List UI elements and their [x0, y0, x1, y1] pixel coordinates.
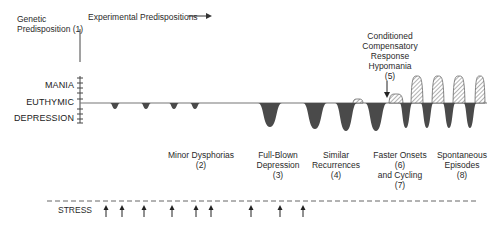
annotation-line: Hypomania [355, 61, 425, 71]
depression-episodes [110, 103, 477, 131]
stage-line: Full-Blown [248, 150, 308, 160]
stress-arrow-icon [209, 205, 214, 217]
depression-episode [190, 103, 200, 109]
depression-episode [335, 103, 357, 131]
depression-episode [110, 103, 120, 109]
stress-arrow-icon [194, 205, 199, 217]
depression-episode [421, 103, 434, 128]
annotation-line: Response [355, 51, 425, 61]
annotation-line: Conditioned [355, 31, 425, 41]
stage-label-minor-dysphorias: Minor Dysphorias (2) [166, 150, 236, 170]
stress-arrow-icon [249, 205, 254, 217]
depression-episode [169, 103, 179, 109]
experimental-predispositions-label: Experimental Predispositions [88, 12, 198, 22]
stress-arrow-icon [104, 205, 109, 217]
mania-episode [453, 76, 465, 103]
mania-episode [353, 99, 363, 103]
axis-label-euthymic: EUTHYMIC [0, 97, 74, 107]
stage-line: and Cycling [367, 170, 433, 180]
stage-line: Similar [306, 150, 366, 160]
stage-line: Minor Dysphorias [166, 150, 236, 160]
stage-line: (2) [166, 160, 236, 170]
stress-arrow-icon [278, 205, 283, 217]
stress-arrow-icon [170, 205, 175, 217]
stage-label-faster-onsets: Faster Onsets (6) and Cycling (7) [367, 150, 433, 190]
depression-episode [258, 103, 282, 127]
axis-label-mania: MANIA [0, 80, 74, 90]
stress-arrow-icon [120, 205, 125, 217]
stage-label-similar-recurrences: Similar Recurrences (4) [306, 150, 366, 180]
stress-arrow-icon [142, 205, 147, 217]
stress-label: STRESS [58, 205, 92, 215]
stage-line: Recurrences [306, 160, 366, 170]
genetic-label-line1: Genetic [17, 14, 83, 24]
stage-label-full-blown-depression: Full-Blown Depression (3) [248, 150, 308, 180]
annotation-line: Compensatory [355, 41, 425, 51]
mood-axis [77, 76, 83, 123]
annotation-line: (5) [355, 71, 425, 81]
stage-line: (8) [432, 170, 492, 180]
stage-line: (6) [367, 160, 433, 170]
genetic-label-line2: Predisposition (1) [17, 24, 83, 34]
hypomania-annotation: Conditioned Compensatory Response Hypoma… [355, 31, 425, 81]
depression-episode [141, 103, 151, 109]
stage-label-spontaneous-episodes: Spontaneous Episodes (8) [432, 150, 492, 180]
stress-arrows [104, 205, 306, 217]
depression-episode [464, 103, 477, 128]
stage-line: (4) [306, 170, 366, 180]
mania-episode [389, 94, 403, 103]
depression-episode [365, 103, 387, 131]
stage-line: Episodes [432, 160, 492, 170]
stage-line: (3) [248, 170, 308, 180]
depression-episode [303, 103, 327, 129]
depression-episode [443, 103, 456, 128]
hypomania-arrow-icon [384, 81, 390, 98]
stage-line: Spontaneous [432, 150, 492, 160]
stage-line: Depression [248, 160, 308, 170]
stage-line: Faster Onsets [367, 150, 433, 160]
axis-label-depression: DEPRESSION [0, 113, 74, 123]
stress-arrow-icon [301, 205, 306, 217]
mania-episode [475, 76, 485, 103]
genetic-predisposition-label: Genetic Predisposition (1) [17, 14, 83, 34]
mania-episode [432, 76, 444, 103]
stage-line: (7) [367, 180, 433, 190]
depression-episode [400, 103, 413, 128]
